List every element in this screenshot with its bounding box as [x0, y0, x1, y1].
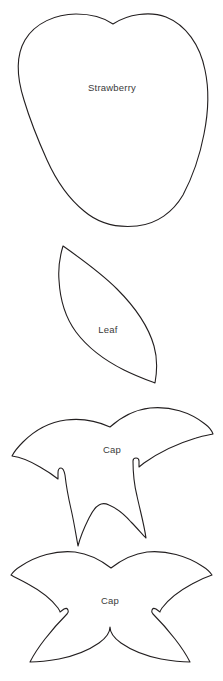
cap-three-lobe-label: Cap: [103, 444, 121, 455]
cap-four-lobe-label: Cap: [101, 595, 119, 606]
strawberry-label: Strawberry: [88, 82, 136, 93]
pattern-canvas: Strawberry Leaf Cap Cap: [0, 0, 223, 681]
leaf-label: Leaf: [98, 324, 117, 335]
pattern-template-sheet: Strawberry Leaf Cap Cap: [0, 0, 223, 681]
